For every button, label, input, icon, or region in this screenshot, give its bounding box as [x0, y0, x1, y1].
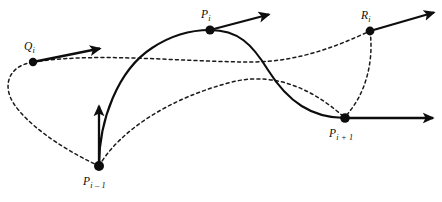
tangent-at-r-i	[370, 13, 434, 32]
label-p-i: Pi	[201, 9, 211, 21]
point-r-i	[366, 27, 375, 36]
diagram-canvas	[0, 0, 442, 202]
point-p-i	[205, 25, 214, 34]
label-r-i-subscript: i	[368, 15, 371, 24]
point-p-i-minus-1	[94, 161, 104, 171]
label-p-i-minus-1-subscript: i – 1	[90, 181, 106, 190]
label-r-i: Ri	[361, 10, 371, 22]
spline-diagram: Qi Pi Ri Pi – 1 Pi + 1	[0, 0, 442, 202]
solid-interpolating-spline	[99, 30, 345, 166]
label-p-i-minus-1: Pi – 1	[83, 176, 106, 188]
tangent-at-q-i	[33, 49, 100, 63]
dashed-arc-q-to-r	[33, 31, 370, 62]
tangent-at-p-i	[210, 15, 269, 31]
dashed-arc-p-i-minus-1-to-p-i-plus-1	[99, 79, 345, 166]
label-p-i-subscript: i	[208, 14, 211, 23]
label-p-i-plus-1: Pi + 1	[329, 128, 353, 140]
dashed-loop-q-to-p-i-minus-1	[8, 62, 99, 166]
label-q-i: Qi	[24, 41, 35, 53]
label-p-i-plus-1-subscript: i + 1	[336, 133, 353, 142]
label-q-i-subscript: i	[32, 46, 35, 55]
point-q-i	[29, 58, 37, 66]
dashed-arc-r-to-p-i-plus-1	[345, 31, 371, 118]
point-p-i-plus-1	[340, 113, 350, 123]
